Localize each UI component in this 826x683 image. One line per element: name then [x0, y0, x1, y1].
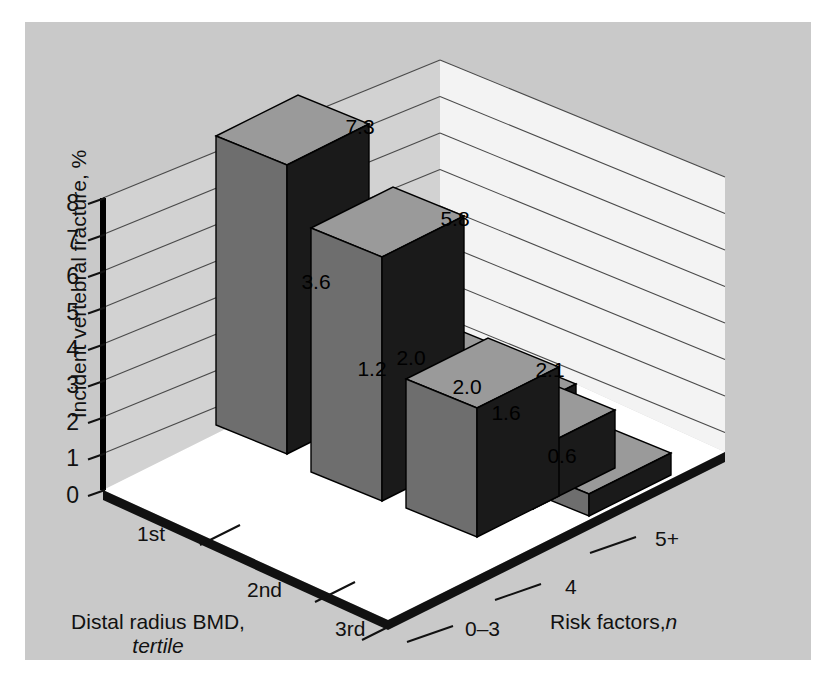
x-axis-title: Distal radius BMD, tertile [43, 610, 273, 658]
z-tick-label-0to3: 0–3 [465, 617, 500, 641]
bar-3rd-0to3 [406, 338, 559, 537]
x-tick-label-3rd: 3rd [335, 617, 365, 641]
z-axis-title-italic: n [666, 610, 678, 633]
y-axis-title: Incident vertebral fracture, % [67, 134, 91, 434]
chart-3d-canvas [25, 22, 811, 660]
y-tick-1: 1 [53, 445, 79, 472]
z-axis-title-main: Risk factors, [550, 610, 666, 633]
y-tick-0: 0 [53, 482, 79, 509]
figure-root: 7.3 3.6 1.2 5.8 2.0 2.0 2.1 1.6 0.6 8 7 … [0, 0, 826, 683]
x-tick-label-2nd: 2nd [247, 578, 282, 602]
x-axis-title-main: Distal radius BMD, [71, 610, 245, 633]
chart-panel: 7.3 3.6 1.2 5.8 2.0 2.0 2.1 1.6 0.6 8 7 … [25, 22, 811, 660]
z-tick-label-5plus: 5+ [655, 527, 679, 551]
x-tick-label-1st: 1st [137, 522, 165, 546]
z-axis-title: Risk factors,n [550, 610, 780, 634]
x-axis-title-italic: tertile [43, 634, 273, 658]
z-tick-label-4: 4 [565, 575, 577, 599]
